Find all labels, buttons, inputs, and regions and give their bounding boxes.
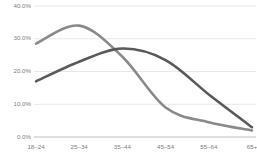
x-tick-label: 25–34: [71, 143, 89, 150]
x-tick-label: 65+: [247, 143, 257, 150]
x-tick-label: 55–64: [200, 143, 218, 150]
x-tick-label: 35–44: [114, 143, 132, 150]
line-chart-figure: 0.0%10.0%20.0%30.0%40.0% 18–2425–3435–44…: [0, 0, 257, 167]
y-tick-label: 40.0%: [13, 2, 31, 9]
x-tick-label: 18–24: [27, 143, 45, 150]
y-tick-label: 30.0%: [13, 34, 31, 41]
y-tick-label: 20.0%: [13, 67, 31, 74]
x-tick-label: 45–54: [157, 143, 175, 150]
chart-canvas: 0.0%10.0%20.0%30.0%40.0% 18–2425–3435–44…: [0, 0, 257, 167]
y-tick-label: 10.0%: [13, 100, 31, 107]
y-tick-label: 0.0%: [17, 133, 32, 140]
